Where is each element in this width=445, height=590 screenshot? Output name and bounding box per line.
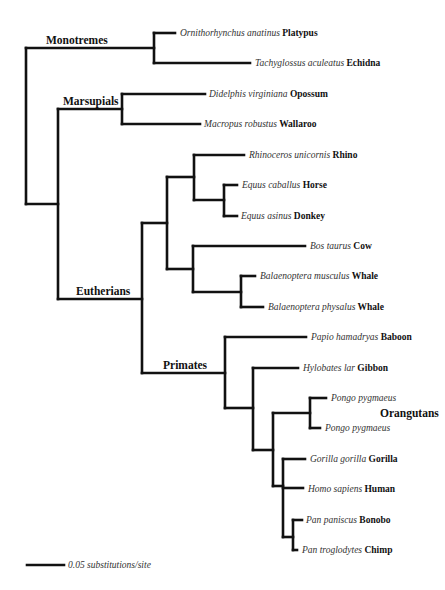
species-name: Pongo pygmaeus	[330, 393, 396, 403]
species-name: Pongo pygmaeus	[324, 423, 390, 433]
species-name: Macropus robustus	[203, 119, 277, 129]
common-name: Horse	[300, 180, 327, 190]
taxon-label-rhino: Rhinoceros unicornis Rhino	[248, 150, 358, 160]
scale-bar: 0.05 substitutions/site	[27, 560, 151, 570]
species-name: Homo sapiens	[307, 484, 362, 494]
taxon-label-orangutan-1: Pongo pygmaeus	[330, 393, 396, 403]
common-name: Platypus	[280, 28, 318, 38]
taxon-label-cow: Bos taurus Cow	[310, 241, 372, 251]
species-name: Balaenoptera physalus	[268, 302, 356, 312]
taxon-label-opossum: Didelphis virginiana Opossum	[208, 89, 328, 99]
species-name: Equus asinus	[240, 211, 292, 221]
common-name: Gibbon	[355, 363, 389, 373]
species-name: Balaenoptera musculus	[260, 271, 350, 281]
taxon-label-orangutan-2: Pongo pygmaeus	[324, 423, 390, 433]
tree-branches	[26, 33, 326, 550]
scale-bar-label: 0.05 substitutions/site	[68, 560, 151, 570]
species-name: Bos taurus	[310, 241, 351, 251]
common-name: Donkey	[291, 211, 325, 221]
taxon-label-horse: Equus caballus Horse	[241, 180, 327, 190]
taxon-label-platypus: Ornithorhynchus anatinus Platypus	[180, 28, 318, 38]
common-name: Cow	[351, 241, 372, 251]
phylogenetic-tree: MonotremesMarsupialsEutheriansPrimatesOr…	[0, 0, 445, 590]
common-name: Whale	[355, 302, 384, 312]
taxon-label-gorilla: Gorilla gorilla Gorilla	[310, 454, 398, 464]
taxon-label-donkey: Equus asinus Donkey	[240, 211, 325, 221]
species-name: Papio hamadryas	[310, 332, 379, 342]
species-name: Gorilla gorilla	[310, 454, 366, 464]
clade-label-monotremes: Monotremes	[46, 34, 108, 46]
taxon-label-bonobo: Pan paniscus Bonobo	[305, 515, 391, 525]
taxon-label-human: Homo sapiens Human	[307, 484, 396, 494]
species-name: Pan paniscus	[305, 515, 357, 525]
taxon-label-chimp: Pan troglodytes Chimp	[301, 545, 392, 555]
common-name: Baboon	[378, 332, 412, 342]
common-name: Rhino	[330, 150, 357, 160]
common-name: Wallaroo	[277, 119, 317, 129]
taxon-label-fin-whale: Balaenoptera physalus Whale	[268, 302, 384, 312]
common-name: Human	[362, 484, 396, 494]
species-name: Rhinoceros unicornis	[248, 150, 330, 160]
common-name: Bonobo	[357, 515, 391, 525]
taxon-label-wallaroo: Macropus robustus Wallaroo	[203, 119, 317, 129]
clade-label-eutherians: Eutherians	[76, 285, 131, 297]
common-name: Whale	[349, 271, 378, 281]
common-name: Echidna	[344, 58, 380, 68]
species-name: Hylobates lar	[302, 363, 355, 373]
taxon-label-blue-whale: Balaenoptera musculus Whale	[260, 271, 378, 281]
clade-label-marsupials: Marsupials	[63, 95, 119, 108]
common-name: Chimp	[362, 545, 392, 555]
clade-label-orangutans: Orangutans	[380, 407, 439, 420]
species-name: Tachyglossus aculeatus	[255, 58, 344, 68]
common-name: Opossum	[288, 89, 328, 99]
species-name: Ornithorhynchus anatinus	[180, 28, 280, 38]
common-name: Gorilla	[366, 454, 398, 464]
species-name: Equus caballus	[241, 180, 301, 190]
clade-label-primates: Primates	[163, 359, 208, 371]
species-name: Didelphis virginiana	[208, 89, 288, 99]
taxon-label-echidna: Tachyglossus aculeatus Echidna	[255, 58, 381, 68]
taxon-label-gibbon: Hylobates lar Gibbon	[302, 363, 389, 373]
taxon-label-baboon: Papio hamadryas Baboon	[310, 332, 413, 342]
species-name: Pan troglodytes	[301, 545, 362, 555]
